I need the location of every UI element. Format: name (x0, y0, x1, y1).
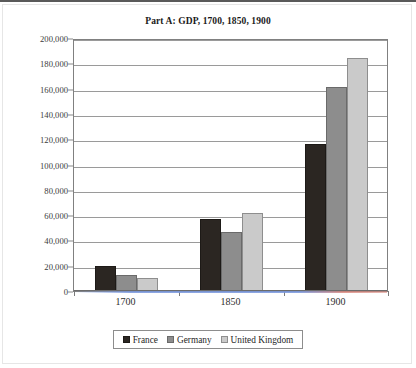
bar-united-kingdom-1850 (242, 213, 263, 291)
y-axis-tick-label: 160,000 (8, 85, 68, 95)
bar-france-1700 (95, 266, 116, 291)
legend-label: United Kingdom (231, 335, 294, 345)
bar-germany-1700 (116, 275, 137, 291)
y-axis-tick-label: 200,000 (8, 34, 68, 44)
bar-germany-1850 (221, 232, 242, 291)
legend-swatch-icon (221, 336, 228, 343)
x-axis-tick-label: 1700 (81, 296, 171, 307)
legend-swatch-icon (167, 336, 174, 343)
legend-swatch-icon (123, 336, 130, 343)
bar-germany-1900 (326, 87, 347, 291)
y-axis-tick-label: 120,000 (8, 135, 68, 145)
bar-france-1900 (305, 144, 326, 291)
y-axis-tick-label: 180,000 (8, 59, 68, 69)
y-axis-tick-label: 20,000 (8, 262, 68, 272)
bar-france-1850 (200, 219, 221, 291)
y-axis-tick-label: 100,000 (8, 161, 68, 171)
plot-area (73, 39, 388, 292)
chart-legend: FranceGermanyUnited Kingdom (113, 330, 303, 349)
legend-entry-germany: Germany (167, 335, 212, 345)
x-axis-tick-mark (388, 291, 389, 296)
legend-label: France (133, 335, 158, 345)
chart-page: Part A: GDP, 1700, 1850, 1900 020,00040,… (0, 0, 416, 368)
chart-title: Part A: GDP, 1700, 1850, 1900 (0, 16, 416, 26)
y-axis-tick-label: 60,000 (8, 211, 68, 221)
page-top-rule (0, 0, 416, 2)
gridline (74, 65, 387, 66)
x-axis-tick-label: 1850 (186, 296, 276, 307)
y-axis-tick-label: 0 (8, 287, 68, 297)
bar-united-kingdom-1900 (347, 58, 368, 291)
baseline-ink-tint (74, 291, 387, 293)
legend-entry-united-kingdom: United Kingdom (221, 335, 294, 345)
legend-entry-france: France (123, 335, 158, 345)
y-axis-tick-label: 40,000 (8, 236, 68, 246)
y-axis-tick-label: 80,000 (8, 186, 68, 196)
x-axis-tick-label: 1900 (291, 296, 381, 307)
y-axis-tick-label: 140,000 (8, 110, 68, 120)
gridline (74, 40, 387, 41)
legend-label: Germany (177, 335, 212, 345)
